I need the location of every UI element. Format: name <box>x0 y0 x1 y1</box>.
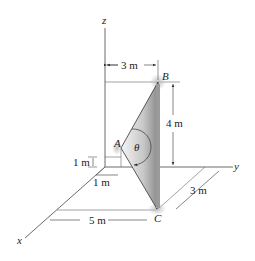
dim-3m-depth: 3 m <box>176 171 219 209</box>
triangular-plate <box>121 82 160 209</box>
point-c-label: C <box>154 212 162 224</box>
point-a-label: A <box>113 137 121 149</box>
dim-4m-label: 4 m <box>166 117 183 129</box>
point-b-label: B <box>162 70 169 82</box>
dim-4m: 4 m <box>166 84 183 165</box>
dim-3m-top-label: 3 m <box>121 59 138 71</box>
dim-1m-height-label: 1 m <box>73 156 90 168</box>
dim-3m-top: 3 m <box>107 59 158 80</box>
y-axis-label: y <box>233 160 239 172</box>
vector-diagram: θ 3 m 4 m 1 m 1 m 3 m 5 m B A C <box>0 0 255 261</box>
x-axis-label: x <box>16 234 22 246</box>
dim-1m-height: 1 m <box>73 156 97 168</box>
dim-5m-label: 5 m <box>89 214 106 226</box>
dim-5m: 5 m <box>50 214 147 226</box>
theta-label: θ <box>134 141 140 153</box>
dim-3m-depth-label: 3 m <box>190 184 207 196</box>
dim-1m-offset: 1 m <box>93 175 118 188</box>
z-axis-label: z <box>101 14 107 26</box>
dim-1m-offset-label: 1 m <box>93 176 110 188</box>
